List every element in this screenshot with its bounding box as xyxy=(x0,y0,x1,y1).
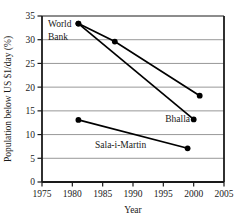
x-axis-title: Year xyxy=(124,205,142,215)
x-tick-labels: 1975 1980 1985 1990 1995 2000 2005 xyxy=(33,189,234,199)
data-point-bhalla-2001 xyxy=(197,93,203,99)
x-tick-label-1995: 1995 xyxy=(154,189,173,199)
x-tick-label-2000: 2000 xyxy=(184,189,203,199)
x-tick-label-2005: 2005 xyxy=(215,189,234,199)
chart-figure: 35 30 25 20 15 10 5 0 1975 1980 1985 199… xyxy=(0,0,245,223)
data-point-world-bank-1981 xyxy=(76,21,82,27)
data-point-world-bank-2000 xyxy=(191,117,197,123)
series-label-sala-i-martin: Sala-i-Martin xyxy=(95,140,146,150)
data-point-bhalla-1987 xyxy=(112,39,118,45)
y-tick-label-20: 20 xyxy=(26,83,36,93)
y-tick-label-30: 30 xyxy=(26,35,36,45)
y-axis-title: Population below US $1/day (%) xyxy=(3,36,14,162)
y-tick-label-5: 5 xyxy=(30,154,35,164)
x-tick-label-1990: 1990 xyxy=(124,189,143,199)
y-tick-label-15: 15 xyxy=(26,106,36,116)
data-point-sala-i-martin-1998 xyxy=(185,145,191,151)
y-tick-label-35: 35 xyxy=(26,11,36,21)
series-label-bhalla: Bhalla xyxy=(165,114,191,124)
y-tick-label-0: 0 xyxy=(30,177,35,187)
y-tick-labels: 35 30 25 20 15 10 5 0 xyxy=(26,11,36,187)
y-tick-label-25: 25 xyxy=(26,59,36,69)
x-tick-label-1985: 1985 xyxy=(93,189,112,199)
x-tick-label-1975: 1975 xyxy=(33,189,52,199)
series-label-world-bank-line2: Bank xyxy=(48,32,68,42)
line-chart: 35 30 25 20 15 10 5 0 1975 1980 1985 199… xyxy=(0,0,245,223)
plot-area-background xyxy=(42,16,224,182)
data-point-sala-i-martin-1981 xyxy=(76,117,82,123)
y-tick-label-10: 10 xyxy=(26,130,36,140)
x-tick-label-1980: 1980 xyxy=(63,189,82,199)
series-label-world-bank-line1: World xyxy=(48,19,72,29)
